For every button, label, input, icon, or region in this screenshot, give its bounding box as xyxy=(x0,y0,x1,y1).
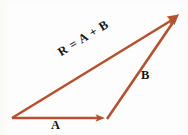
vector-b-arrow xyxy=(107,14,179,119)
vector-a-label: A xyxy=(51,119,60,132)
vector-addition-figure: R = A + B B A xyxy=(0,0,188,135)
vector-b-label: B xyxy=(141,69,150,82)
vector-diagram-canvas xyxy=(0,0,188,135)
